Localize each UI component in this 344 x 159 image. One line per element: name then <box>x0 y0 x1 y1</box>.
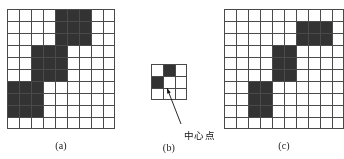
grid-panel-a <box>7 9 115 129</box>
grid-panel-b <box>151 64 187 100</box>
grid-canvas-b <box>151 64 187 100</box>
caption-c: (c) <box>264 140 304 151</box>
caption-a: (a) <box>41 140 81 151</box>
grid-canvas-c <box>224 9 344 129</box>
caption-b: (b) <box>149 142 189 153</box>
center-point-label: 中心点 <box>184 128 215 142</box>
grid-canvas-a <box>7 9 115 129</box>
grid-panel-c <box>224 9 344 129</box>
